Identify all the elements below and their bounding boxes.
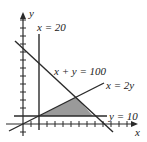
x-axis-label: x bbox=[134, 126, 140, 138]
label-x-equals-2y: x = 2y bbox=[105, 79, 134, 91]
y-axis-label: y bbox=[28, 7, 34, 19]
lp-diagram: y x x = 20 x + y = 100 x = 2y y = 10 bbox=[0, 0, 147, 142]
label-x-equals-20: x = 20 bbox=[36, 21, 66, 33]
y-axis bbox=[20, 16, 26, 136]
label-y-equals-10: y = 10 bbox=[108, 110, 138, 122]
label-x-plus-y-equals-100: x + y = 100 bbox=[53, 65, 107, 77]
y-axis-arrow-icon bbox=[20, 12, 26, 19]
